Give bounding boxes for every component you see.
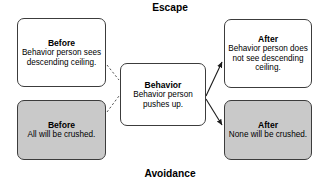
- connector-behavior-to-after-avoidance: [206, 99, 222, 125]
- node-title: After: [258, 34, 278, 44]
- connector-before-avoidance-to-behavior: [107, 96, 119, 112]
- escape-avoidance-diagram: Escape Before Behavior person sees desce…: [0, 0, 329, 188]
- node-title: After: [258, 120, 278, 130]
- node-title: Behavior: [145, 80, 182, 90]
- node-body: None will be crushed.: [229, 130, 307, 140]
- node-after-escape: After Behavior person does not see desce…: [224, 19, 312, 88]
- connector-before-escape-to-behavior: [107, 65, 119, 80]
- node-before-escape: Before Behavior person sees descending c…: [17, 18, 106, 87]
- node-title: Before: [48, 38, 75, 48]
- connector-behavior-to-after-escape: [206, 62, 222, 96]
- node-before-avoidance: Before All will be crushed.: [17, 100, 106, 160]
- node-after-avoidance: After None will be crushed.: [224, 100, 312, 160]
- node-body: Behavior person sees descending ceiling.: [18, 48, 105, 67]
- node-body: All will be crushed.: [28, 130, 96, 140]
- node-body: Behavior person does not see descending …: [225, 44, 311, 73]
- band-label-avoidance: Avoidance: [110, 168, 230, 179]
- band-label-escape: Escape: [110, 2, 230, 13]
- node-body: Behavior person pushes up.: [121, 90, 205, 109]
- node-behavior: Behavior Behavior person pushes up.: [120, 63, 206, 126]
- node-title: Before: [48, 120, 75, 130]
